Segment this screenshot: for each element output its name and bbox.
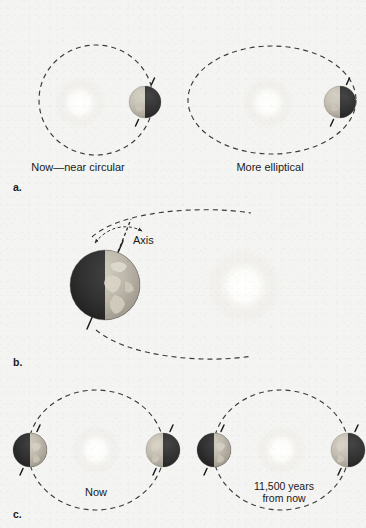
label-future-line2: from now — [262, 492, 306, 504]
panel-letter-c: c. — [13, 508, 22, 520]
sun-now — [71, 425, 121, 475]
panel-c-precession-equinoxes: Now 11,500 years from now c. — [13, 390, 365, 520]
milankovitch-figure: Now—near circular More elliptical a. — [0, 0, 366, 528]
orbit-arc-lower — [96, 330, 252, 359]
earth-tilted — [70, 241, 140, 329]
label-now: Now — [85, 486, 107, 498]
sun-center — [206, 248, 282, 324]
earth-left — [129, 78, 161, 126]
label-now-near-circular: Now—near circular — [31, 161, 125, 173]
label-future-line1: 11,500 years — [254, 480, 314, 492]
earth-now-perihelion — [146, 425, 180, 475]
orbit-arc-upper — [92, 210, 251, 237]
panel-a-eccentricity: Now—near circular More elliptical a. — [13, 45, 356, 193]
earth-future-perihelion — [331, 425, 365, 475]
panel-letter-a: a. — [13, 181, 22, 193]
sun-left — [54, 77, 106, 129]
label-more-elliptical: More elliptical — [236, 161, 303, 173]
figure-canvas: Now—near circular More elliptical a. — [0, 0, 366, 528]
panel-letter-b: b. — [13, 356, 22, 368]
label-axis: Axis — [133, 234, 154, 246]
panel-b-axial-precession: Axis b. — [13, 210, 282, 368]
earth-future-aphelion — [197, 425, 231, 475]
sun-right — [242, 77, 294, 129]
sun-future — [256, 425, 306, 475]
earth-now-aphelion — [13, 425, 47, 475]
